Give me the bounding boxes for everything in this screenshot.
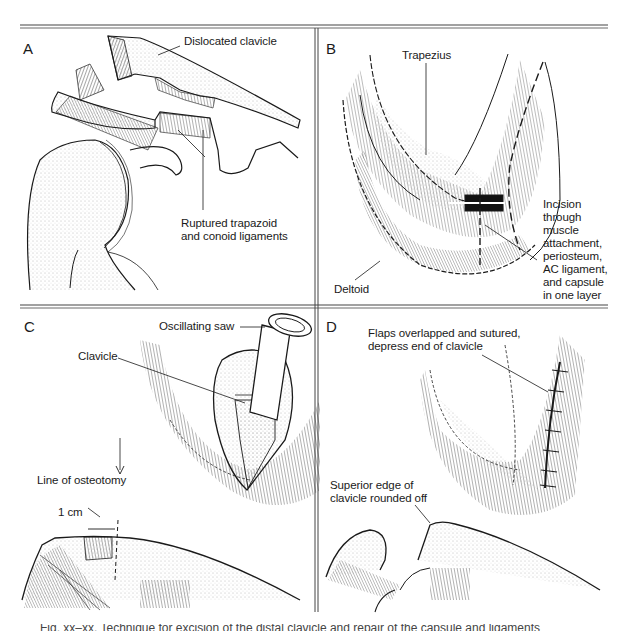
label-clavicle: Clavicle [78,350,117,363]
label-superior-line1: Superior edge of [330,479,427,492]
incision-line: Incision [543,198,608,211]
incision-line: muscle [543,224,608,237]
incision-line: and capsule [543,276,608,289]
label-oscillating-saw: Oscillating saw [159,320,234,333]
panel-a-letter: A [23,40,33,57]
label-flaps: Flaps overlapped and sutured, depress en… [368,327,520,353]
figure-artwork [0,0,629,631]
incision-line: in one layer [543,289,608,302]
figure-caption-cutoff: Fig. xx–xx. Technique for excision of th… [40,624,600,631]
label-flaps-line2: depress end of clavicle [368,340,520,353]
label-dislocated-clavicle: Dislocated clavicle [184,35,277,48]
label-ruptured-ligaments: Ruptured trapazoid and conoid ligaments [181,217,288,243]
panel-d-letter: D [326,318,337,335]
panel-c-art [22,310,320,610]
label-1cm: 1 cm [58,506,83,519]
label-ruptured-line2: and conoid ligaments [181,230,288,243]
incision-line: through [543,211,608,224]
panel-c-letter: C [24,318,35,335]
label-trapezius: Trapezius [402,49,451,62]
label-superior-line2: clavicle rounded off [330,492,427,505]
panel-b-art [343,54,560,280]
label-deltoid: Deltoid [334,283,369,296]
incision-line: AC ligament, [543,263,608,276]
panel-b-letter: B [326,40,336,57]
incision-line: periosteum, [543,250,608,263]
label-incision: Incision through muscle attachment, peri… [543,198,608,302]
incision-line: attachment, [543,237,608,250]
medical-figure: A B C D Dislocated clavicle Ruptured tra… [0,0,629,631]
panel-d-art [326,335,600,612]
label-ruptured-line1: Ruptured trapazoid [181,217,288,230]
label-flaps-line1: Flaps overlapped and sutured, [368,327,520,340]
label-line-of-osteotomy: Line of osteotomy [37,474,126,487]
label-superior-edge: Superior edge of clavicle rounded off [330,479,427,505]
panel-a-art [28,36,300,290]
